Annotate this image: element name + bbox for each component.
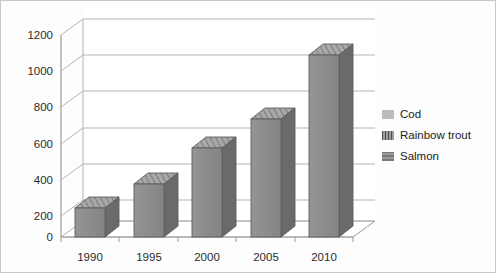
x-tick-label-1990: 1990 xyxy=(64,251,116,263)
x-tick-label-2010: 2010 xyxy=(298,251,350,263)
legend-item-rainbow-trout[interactable]: Rainbow trout xyxy=(382,126,471,144)
y-tick-label: 200 xyxy=(9,210,53,222)
legend-item-salmon[interactable]: Salmon xyxy=(382,147,471,165)
bar-1995 xyxy=(134,173,178,237)
x-tick-label-1995: 1995 xyxy=(123,251,175,263)
legend-label-cod: Cod xyxy=(400,108,421,120)
salmon-swatch xyxy=(382,152,394,161)
legend-item-cod[interactable]: Cod xyxy=(382,105,471,123)
rainbow-trout-swatch xyxy=(382,131,394,140)
y-tick-label: 800 xyxy=(9,101,53,113)
bar-2010 xyxy=(309,44,353,237)
legend-label-rainbow-trout: Rainbow trout xyxy=(400,129,471,141)
y-tick-label: 1000 xyxy=(9,65,53,77)
y-tick-label: 600 xyxy=(9,138,53,150)
legend-label-salmon: Salmon xyxy=(400,150,439,162)
x-tick-marks xyxy=(61,237,353,242)
x-tick-label-2005: 2005 xyxy=(240,251,292,263)
bar-2005 xyxy=(251,108,295,237)
y-tick-label: 0 xyxy=(9,231,53,243)
cod-swatch xyxy=(382,110,394,119)
y-tick-label: 1200 xyxy=(9,29,53,41)
y-tick-label: 400 xyxy=(9,174,53,186)
bar-2000 xyxy=(192,137,236,237)
chart-frame: 1200 1000 800 600 400 200 0 1990 1995 20… xyxy=(0,0,496,273)
bar-1990 xyxy=(75,197,119,237)
x-tick-label-2000: 2000 xyxy=(181,251,233,263)
chart-legend: Cod Rainbow trout Salmon xyxy=(382,105,471,168)
